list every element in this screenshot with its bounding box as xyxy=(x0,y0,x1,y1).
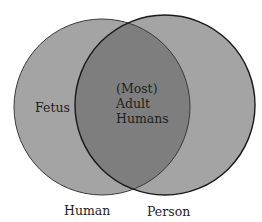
venn-diagram: Fetus (Most) Adult Humans Human Person xyxy=(0,0,262,222)
region-label-intersection-line-3: Humans xyxy=(116,111,169,126)
region-label-intersection-line-2: Adult xyxy=(115,96,150,111)
region-label-fetus: Fetus xyxy=(35,100,70,115)
region-label-intersection-line-1: (Most) xyxy=(116,81,158,96)
set-label-person: Person xyxy=(147,204,190,219)
set-label-human: Human xyxy=(64,203,110,218)
